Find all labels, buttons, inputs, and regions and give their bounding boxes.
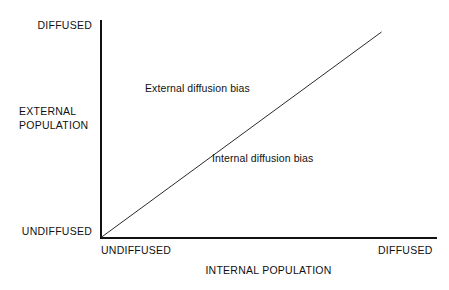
region-label-internal-diffusion-bias: Internal diffusion bias <box>212 152 313 164</box>
y-axis-line <box>100 20 102 239</box>
y-axis-tick-top: DIFFUSED <box>38 19 93 31</box>
x-axis-title: INTERNAL POPULATION <box>100 263 437 277</box>
y-axis-title-line-2: POPULATION <box>19 118 88 132</box>
x-axis-tick-left: UNDIFFUSED <box>101 244 171 256</box>
x-axis-tick-right: DIFFUSED <box>378 244 433 256</box>
region-label-external-diffusion-bias: External diffusion bias <box>145 82 250 94</box>
y-axis-tick-bottom: UNDIFFUSED <box>22 225 92 237</box>
y-axis-title: EXTERNAL POPULATION <box>19 104 88 132</box>
y-axis-title-line-1: EXTERNAL <box>19 104 88 118</box>
x-axis-line <box>100 237 437 239</box>
diffusion-bias-chart: DIFFUSED UNDIFFUSED EXTERNAL POPULATION … <box>0 0 449 290</box>
